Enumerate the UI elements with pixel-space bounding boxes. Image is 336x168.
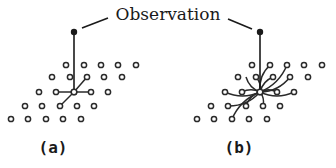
grid-node-a	[81, 62, 86, 67]
leader-line-b	[228, 19, 252, 29]
panel-label-b: (b)	[225, 138, 254, 157]
observation-point-a	[71, 29, 77, 35]
grid-node-b	[277, 103, 282, 108]
grid-node-a	[119, 74, 124, 79]
grid-node-b	[229, 116, 234, 121]
grid-node-a	[53, 89, 58, 94]
observation-point-b	[257, 29, 263, 35]
grid-node-b	[264, 116, 269, 121]
grid-node-b	[267, 62, 272, 67]
grid-node-b	[253, 74, 258, 79]
grid-node-a	[115, 62, 120, 67]
grid-node-b	[194, 116, 199, 121]
grid-node-b	[301, 62, 306, 67]
grid-node-a	[101, 74, 106, 79]
grid-node-b	[270, 74, 275, 79]
grid-node-a	[8, 116, 13, 121]
grid-node-a	[88, 89, 93, 94]
grid-node-a	[25, 116, 30, 121]
observation-diagram: Observation (a) (b)	[0, 0, 336, 168]
grid-node-b	[246, 116, 251, 121]
grid-node-a	[98, 62, 103, 67]
grid-node-a	[74, 103, 79, 108]
center-node	[257, 89, 263, 95]
panel-a: (a)	[8, 29, 138, 157]
grid-node-b	[260, 103, 265, 108]
grid-node-a	[78, 116, 83, 121]
grid-node-a	[133, 62, 138, 67]
grid-node-a	[91, 103, 96, 108]
grid-node-b	[305, 74, 310, 79]
grid-node-a	[63, 62, 68, 67]
grid-node-b	[274, 89, 279, 94]
panel-label-a: (a)	[39, 138, 68, 157]
grid-node-b	[235, 74, 240, 79]
grid-node-b	[284, 62, 289, 67]
grid-node-b	[239, 89, 244, 94]
grid-node-b	[225, 103, 230, 108]
grid-node-b	[222, 89, 227, 94]
grid-node-a	[57, 103, 62, 108]
grid-node-a	[105, 89, 110, 94]
leader-line-a	[82, 18, 108, 28]
grid-node-a	[84, 74, 89, 79]
grid-node-b	[249, 62, 254, 67]
grid-node-a	[43, 116, 48, 121]
grid-node-a	[49, 74, 54, 79]
grid-node-b	[291, 89, 296, 94]
grid-node-a	[60, 116, 65, 121]
panel-b: (b)	[194, 29, 324, 157]
grid-node-b	[243, 103, 248, 108]
grid-node-a	[67, 74, 72, 79]
observation-title: Observation	[116, 4, 221, 24]
grid-node-b	[319, 62, 324, 67]
grid-node-a	[36, 89, 41, 94]
grid-node-a	[22, 103, 27, 108]
center-node	[71, 89, 77, 95]
grid-node-b	[208, 103, 213, 108]
grid-node-a	[39, 103, 44, 108]
grid-node-b	[287, 74, 292, 79]
grid-node-b	[211, 116, 216, 121]
